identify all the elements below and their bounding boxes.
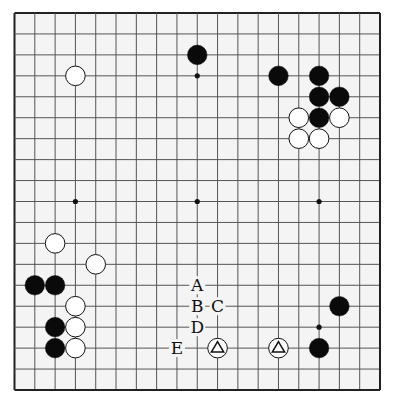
point-label-e: E [169,338,185,358]
white-stone-marked [208,338,228,358]
white-stone [66,66,86,86]
point-label-a: A [189,275,205,295]
black-stone [269,66,289,86]
point-label-b: B [189,296,205,316]
point-label-c: C [210,296,226,316]
label-text: A [190,275,204,295]
black-stone [45,275,65,295]
label-text: D [190,317,204,337]
label-text: C [211,296,224,316]
star-point [195,199,200,204]
black-stone [309,338,329,358]
white-stone [289,108,309,128]
point-label-d: D [189,317,205,337]
black-stone [45,338,65,358]
go-board: ABCDE [0,0,395,405]
white-stone [66,338,86,358]
black-stone [309,87,329,107]
black-stone [330,296,350,316]
black-stone [309,66,329,86]
white-stone [66,296,86,316]
white-stone-marked [269,338,289,358]
black-stone [330,87,350,107]
white-stone [330,108,350,128]
black-stone [25,275,45,295]
black-stone [45,317,65,337]
star-point [316,199,321,204]
black-stone [187,45,207,65]
label-text: B [191,296,204,316]
label-text: E [171,338,183,358]
white-stone [309,129,329,149]
black-stone [309,108,329,128]
star-point [73,199,78,204]
star-point [316,325,321,330]
star-point [195,73,200,78]
white-stone [66,317,86,337]
white-stone [45,234,65,254]
white-stone [289,129,309,149]
white-stone [86,255,106,275]
